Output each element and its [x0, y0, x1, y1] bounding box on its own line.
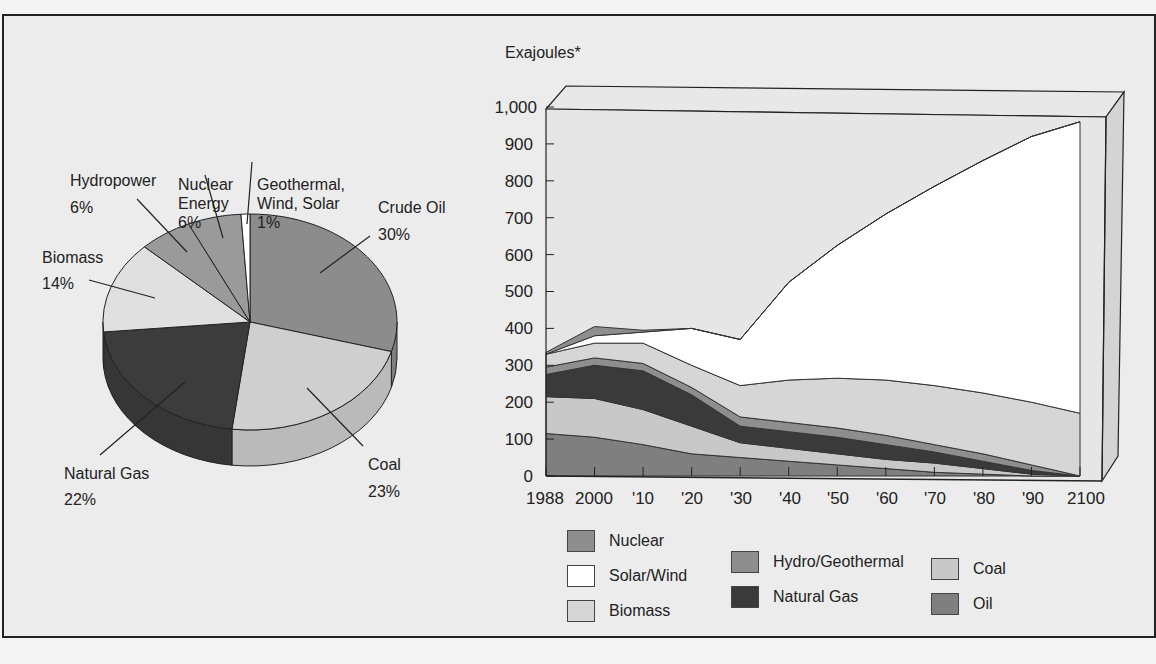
- ytick-100: 100: [505, 430, 533, 449]
- legend-swatch-nuclear: [567, 530, 595, 552]
- pie-label-coal-2: 23%: [368, 483, 400, 500]
- legend-swatch-natural-gas: [731, 586, 759, 608]
- pie-label-hydro-2: 6%: [70, 199, 93, 216]
- legend-item-solar-wind: Solar/Wind: [567, 565, 687, 587]
- x-axis-ticks: 1988 2000 '10 '20 '30 '40 '50 '60 '70 '8…: [526, 489, 1105, 508]
- pie-label-nuclear-3: 6%: [178, 214, 201, 231]
- pie-label-nuclear-2: Energy: [178, 195, 229, 212]
- ytick-0: 0: [524, 467, 533, 486]
- xtick-2010: '10: [632, 489, 654, 508]
- ytick-300: 300: [505, 356, 533, 375]
- legend-label-coal: Coal: [973, 560, 1006, 578]
- legend-label-natural-gas: Natural Gas: [773, 588, 858, 606]
- legend-item-hydro-geo: Hydro/Geothermal: [731, 551, 904, 573]
- pie-label-biomass-2: 14%: [42, 275, 74, 292]
- xtick-2000: 2000: [575, 489, 613, 508]
- pie-label-biomass-1: Biomass: [42, 249, 103, 266]
- ytick-500: 500: [505, 282, 533, 301]
- ytick-900: 900: [505, 135, 533, 154]
- xtick-2060: '60: [876, 489, 898, 508]
- xtick-1988: 1988: [526, 489, 564, 508]
- ytick-800: 800: [505, 172, 533, 191]
- pie-label-gas-2: 22%: [64, 491, 96, 508]
- ytick-400: 400: [505, 319, 533, 338]
- xtick-2070: '70: [924, 489, 946, 508]
- ytick-1000: 1,000: [494, 98, 537, 117]
- legend-item-oil: Oil: [931, 593, 993, 615]
- xtick-2100: 2100: [1067, 489, 1105, 508]
- xtick-2020: '20: [681, 489, 703, 508]
- y-axis-ticks: 0 100 200 300 400 500 600 700 800 900 1,…: [494, 98, 537, 486]
- legend-label-hydro-geo: Hydro/Geothermal: [773, 553, 904, 571]
- legend-label-solar-wind: Solar/Wind: [609, 567, 687, 585]
- xtick-2090: '90: [1022, 489, 1044, 508]
- ytick-200: 200: [505, 393, 533, 412]
- pie-label-geo-1: Geothermal,: [257, 176, 345, 193]
- legend-label-nuclear: Nuclear: [609, 532, 664, 550]
- legend-item-coal: Coal: [931, 558, 1006, 580]
- pie-label-oil-2: 30%: [378, 226, 410, 243]
- y-axis-title: Exajoules*: [505, 44, 581, 61]
- pie-label-geo-3: 1%: [257, 214, 280, 231]
- legend-swatch-biomass: [567, 600, 595, 622]
- xtick-2030: '30: [730, 489, 752, 508]
- pie-label-hydro-1: Hydropower: [70, 172, 157, 189]
- legend-item-biomass: Biomass: [567, 600, 670, 622]
- legend-label-biomass: Biomass: [609, 602, 670, 620]
- legend-item-nuclear: Nuclear: [567, 530, 664, 552]
- pie-label-coal-1: Coal: [368, 456, 401, 473]
- ytick-700: 700: [505, 209, 533, 228]
- legend-swatch-oil: [931, 593, 959, 615]
- xtick-2040: '40: [779, 489, 801, 508]
- legend-swatch-coal: [931, 558, 959, 580]
- pie-label-geo-2: Wind, Solar: [257, 195, 340, 212]
- legend-swatch-solar-wind: [567, 565, 595, 587]
- legend-swatch-hydro-geo: [731, 551, 759, 573]
- xtick-2050: '50: [827, 489, 849, 508]
- pie-label-gas-1: Natural Gas: [64, 465, 149, 482]
- legend-item-natural-gas: Natural Gas: [731, 586, 858, 608]
- legend-label-oil: Oil: [973, 595, 993, 613]
- pie-label-oil-1: Crude Oil: [378, 199, 446, 216]
- ytick-600: 600: [505, 246, 533, 265]
- xtick-2080: '80: [973, 489, 995, 508]
